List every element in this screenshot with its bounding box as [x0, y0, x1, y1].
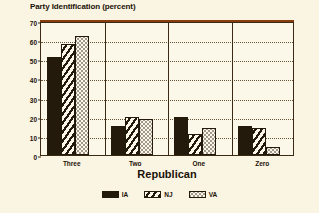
x-axis-title: Republican — [137, 168, 196, 180]
group-separator — [168, 23, 169, 155]
y-axis-tick-label: 60 — [30, 39, 37, 46]
x-axis-tick-label: Three — [63, 160, 81, 167]
y-axis-tick-mark — [38, 99, 41, 100]
x-axis-tick-label: One — [192, 160, 205, 167]
legend-item-va: VA — [189, 191, 218, 198]
legend-item-ia: IA — [102, 191, 129, 198]
bar-nj-two — [125, 117, 139, 155]
y-axis-tick-label: 20 — [30, 115, 37, 122]
bar-ia-two — [111, 126, 125, 155]
bar-ia-one — [174, 117, 188, 155]
bar-va-two — [139, 119, 153, 155]
y-axis-tick-mark — [38, 137, 41, 138]
y-axis-tick-mark — [38, 61, 41, 62]
bar-va-zero — [266, 147, 280, 155]
y-axis-tick-label: 40 — [30, 77, 37, 84]
y-axis-tick-mark — [38, 118, 41, 119]
legend-swatch-ia — [102, 191, 119, 198]
bar-va-three — [75, 36, 89, 155]
y-axis-tick-label: 10 — [30, 134, 37, 141]
y-axis-tick-mark — [38, 23, 41, 24]
chart-legend: IANJVA — [0, 191, 319, 198]
bar-nj-one — [188, 134, 202, 155]
y-axis-tick-mark — [38, 157, 41, 158]
bar-nj-zero — [252, 128, 266, 155]
y-axis-tick-label: 50 — [30, 58, 37, 65]
chart-title: Party Identification (percent) — [30, 2, 135, 11]
group-separator — [105, 23, 106, 155]
y-axis-tick-mark — [38, 80, 41, 81]
y-axis-tick-label: 70 — [30, 20, 37, 27]
x-axis-tick-label: Two — [129, 160, 142, 167]
x-axis-tick-label: Zero — [255, 160, 269, 167]
legend-label: VA — [209, 191, 218, 198]
y-axis-tick-label: 30 — [30, 96, 37, 103]
legend-swatch-va — [189, 191, 206, 198]
legend-label: NJ — [164, 191, 172, 198]
bar-group — [47, 23, 89, 155]
bar-va-one — [202, 128, 216, 155]
bar-nj-three — [61, 44, 75, 155]
bar-group — [174, 23, 216, 155]
group-separator — [232, 23, 233, 155]
y-axis-tick-label: 0 — [33, 154, 37, 161]
bar-group — [238, 23, 280, 155]
legend-label: IA — [122, 191, 129, 198]
y-axis-tick-mark — [38, 42, 41, 43]
legend-swatch-nj — [144, 191, 161, 198]
legend-item-nj: NJ — [144, 191, 172, 198]
bar-ia-zero — [238, 126, 252, 155]
bar-ia-three — [47, 57, 61, 155]
plot-area: 010203040506070 — [40, 22, 294, 156]
chart-screenshot: Party Identification (percent) 010203040… — [0, 0, 319, 213]
bar-group — [111, 23, 153, 155]
